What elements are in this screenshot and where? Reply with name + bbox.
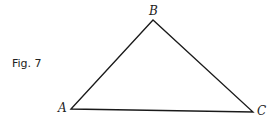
vertex-label-c: C bbox=[257, 104, 266, 118]
vertex-label-b: B bbox=[149, 4, 158, 18]
triangle-abc bbox=[71, 20, 253, 112]
figure-canvas: Fig. 7 A B C bbox=[0, 0, 278, 123]
triangle-diagram bbox=[0, 0, 278, 123]
vertex-label-a: A bbox=[58, 101, 67, 115]
